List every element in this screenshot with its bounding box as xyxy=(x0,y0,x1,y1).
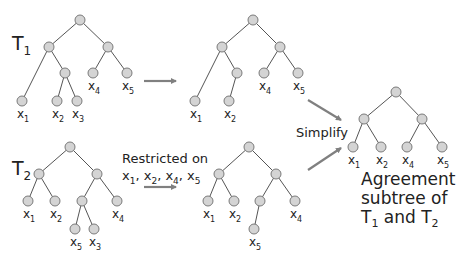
leaf-label-x5: x5​ xyxy=(122,79,134,96)
leaf-node-x2 xyxy=(52,96,62,106)
leaf-label-x4: x4​ xyxy=(88,79,100,96)
agreement-subtree-diagram: x4​x5​x1​x2​x3​T1x4​x5​x1​x2​x1​x2​x4​x5… xyxy=(0,0,464,267)
tree-edge xyxy=(364,92,396,119)
internal-node xyxy=(391,87,401,97)
tree-edge xyxy=(396,92,422,119)
internal-node xyxy=(217,42,227,52)
leaf-node-x1 xyxy=(23,196,33,206)
leaf-label-x1: x1​ xyxy=(190,107,202,124)
leaf-label-x2: x2​ xyxy=(224,107,236,124)
internal-node xyxy=(34,169,44,179)
leaf-node-x5 xyxy=(437,142,447,152)
leaf-label-x1: x1​ xyxy=(17,107,29,124)
tree-edge xyxy=(80,20,108,47)
leaf-label-x3: x3​ xyxy=(89,235,101,252)
leaf-label-x4: x4​ xyxy=(290,207,302,224)
leaf-node-x1 xyxy=(348,142,358,152)
leaf-node-x1 xyxy=(203,196,213,206)
leaf-label-x4: x4​ xyxy=(259,79,271,96)
leaf-node-x4 xyxy=(88,68,98,78)
tree-name-T2: T2 xyxy=(11,157,31,183)
leaf-node-x3 xyxy=(89,224,99,234)
leaf-node-x1 xyxy=(190,96,200,106)
leaf-label-x2: x2​ xyxy=(52,107,64,124)
leaf-node-x4 xyxy=(402,142,412,152)
restricted-caption-line2: x1, x2, x4, x5 xyxy=(122,168,201,186)
leaf-label-x4: x4​ xyxy=(402,153,414,170)
arrow-simplify-T1 xyxy=(308,100,341,120)
result-caption-line3: T1​ and T2​ xyxy=(360,207,439,230)
internal-node xyxy=(271,169,281,179)
internal-node xyxy=(232,68,242,78)
internal-node xyxy=(60,68,70,78)
leaf-node-x5 xyxy=(122,68,132,78)
internal-node xyxy=(75,15,85,25)
tree-edge xyxy=(195,47,222,101)
internal-node xyxy=(103,42,113,52)
leaf-label-x3: x3​ xyxy=(72,107,84,124)
leaf-label-x5: x5​ xyxy=(437,153,449,170)
internal-node xyxy=(248,15,258,25)
tree-edge xyxy=(49,20,80,47)
leaf-node-x4 xyxy=(259,68,269,78)
leaf-node-x2 xyxy=(224,96,234,106)
leaf-label-x1: x1​ xyxy=(203,207,215,224)
leaf-node-x5 xyxy=(249,224,259,234)
simplify-label: Simplify xyxy=(296,125,348,140)
leaf-label-x2: x2​ xyxy=(229,207,241,224)
tree-edge xyxy=(39,147,70,174)
tree-edge xyxy=(219,147,249,174)
result-caption-line1: Agreement xyxy=(361,169,456,189)
leaf-label-x1: x1​ xyxy=(348,153,360,170)
leaf-label-x5: x5​ xyxy=(249,235,261,252)
leaf-node-x4 xyxy=(290,196,300,206)
internal-node xyxy=(275,42,285,52)
leaf-node-x3 xyxy=(72,96,82,106)
internal-node xyxy=(214,169,224,179)
leaf-node-x1 xyxy=(17,96,27,106)
result-caption-line2: subtree of xyxy=(361,188,448,208)
internal-node xyxy=(92,169,102,179)
internal-node xyxy=(77,196,87,206)
tree-name-T1: T1 xyxy=(11,32,31,58)
leaf-label-x5: x5​ xyxy=(70,235,82,252)
tree-edge xyxy=(222,20,253,47)
tree-edge xyxy=(253,20,280,47)
tree-edge xyxy=(70,147,97,174)
internal-node xyxy=(359,114,369,124)
tree-edge xyxy=(249,147,276,174)
internal-node xyxy=(65,142,75,152)
leaf-node-x4 xyxy=(112,196,122,206)
arrow-simplify-T2 xyxy=(308,148,341,170)
leaf-label-x5: x5​ xyxy=(293,79,305,96)
internal-node xyxy=(417,114,427,124)
leaf-label-x2: x2​ xyxy=(50,207,62,224)
leaf-node-x2 xyxy=(50,196,60,206)
internal-node xyxy=(44,42,54,52)
leaf-label-x1: x1​ xyxy=(23,207,35,224)
restricted-caption-line1: Restricted on xyxy=(122,151,208,166)
leaf-label-x4: x4​ xyxy=(112,207,124,224)
leaf-node-x5 xyxy=(70,224,80,234)
leaf-label-x2: x2​ xyxy=(376,153,388,170)
internal-node xyxy=(255,196,265,206)
leaf-node-x5 xyxy=(293,68,303,78)
leaf-node-x2 xyxy=(376,142,386,152)
internal-node xyxy=(244,142,254,152)
leaf-node-x2 xyxy=(229,196,239,206)
